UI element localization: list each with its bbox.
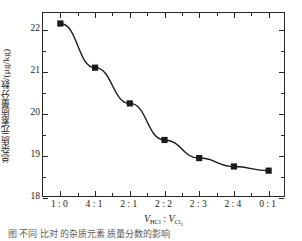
x-axis-minor-tick bbox=[147, 13, 148, 16]
y-axis-minor-tick bbox=[43, 51, 46, 52]
x-axis-minor-tick bbox=[112, 13, 113, 16]
y-axis-tick-labels: 1819202122 bbox=[14, 0, 40, 241]
x-axis-minor-tick bbox=[182, 13, 183, 16]
chart-figure: 总杂质元素质量分数/(μg/kg) 1819202122 1 : 04 : 12… bbox=[0, 0, 302, 241]
x-axis-minor-tick bbox=[78, 193, 79, 196]
x-axis-tick bbox=[95, 13, 96, 18]
x-axis-tick bbox=[60, 13, 61, 18]
x-axis-tick bbox=[165, 13, 166, 18]
x-axis-tick bbox=[95, 191, 96, 196]
x-axis-tick bbox=[234, 13, 235, 18]
y-axis-tick-label: 21 bbox=[16, 66, 40, 76]
y-axis-tick-label: 18 bbox=[16, 192, 40, 202]
x-axis-minor-tick bbox=[217, 193, 218, 196]
y-axis-minor-tick bbox=[281, 177, 284, 178]
y-axis-minor-tick bbox=[43, 177, 46, 178]
x-axis-tick bbox=[269, 191, 270, 196]
x-axis-tick bbox=[60, 191, 61, 196]
x-axis-minor-tick bbox=[112, 193, 113, 196]
x-axis-minor-tick bbox=[251, 13, 252, 16]
y-axis-tick-label: 20 bbox=[16, 108, 40, 118]
x-axis-minor-tick bbox=[182, 193, 183, 196]
y-axis-tick bbox=[279, 30, 284, 31]
data-point-marker bbox=[266, 168, 272, 174]
y-axis-tick bbox=[279, 114, 284, 115]
y-axis-tick bbox=[279, 72, 284, 73]
data-point-marker bbox=[161, 137, 167, 143]
y-axis-tick-label: 19 bbox=[16, 150, 40, 160]
x-axis-tick-label: 2 : 3 bbox=[190, 199, 207, 210]
x-axis-var-2: VCl2 bbox=[168, 213, 183, 224]
y-axis-minor-tick bbox=[43, 135, 46, 136]
x-axis-tick-label: 1 : 0 bbox=[51, 199, 68, 210]
y-axis-minor-tick bbox=[281, 135, 284, 136]
y-axis-minor-tick bbox=[281, 51, 284, 52]
x-axis-var-2-subscript-number: 2 bbox=[181, 222, 184, 227]
x-axis-var-1-subscript: HCl bbox=[150, 218, 161, 225]
x-axis-title: VHCl : VCl2 bbox=[42, 213, 285, 227]
x-axis-var-2-subscript: Cl2 bbox=[175, 218, 184, 225]
x-axis-tick bbox=[199, 13, 200, 18]
x-axis-tick-label: 0 : 1 bbox=[259, 199, 276, 210]
y-axis-tick bbox=[43, 114, 48, 115]
data-point-marker bbox=[57, 20, 63, 26]
x-axis-tick-label: 2 : 4 bbox=[224, 199, 241, 210]
data-point-marker bbox=[127, 100, 133, 106]
y-axis-tick-label: 22 bbox=[16, 24, 40, 34]
y-axis-tick bbox=[43, 72, 48, 73]
x-axis-tick-label: 2 : 2 bbox=[155, 199, 172, 210]
series-line bbox=[60, 24, 268, 171]
x-axis-minor-tick bbox=[78, 13, 79, 16]
y-axis-minor-tick bbox=[281, 93, 284, 94]
x-axis-tick bbox=[269, 13, 270, 18]
plot-area bbox=[42, 12, 285, 197]
data-point-marker bbox=[92, 65, 98, 71]
x-axis-tick bbox=[199, 191, 200, 196]
x-axis-tick bbox=[234, 191, 235, 196]
y-axis-tick bbox=[43, 156, 48, 157]
figure-caption: 图 不同 比对 的杂质元素 质量分数的影响 bbox=[8, 228, 298, 241]
y-axis-tick bbox=[43, 30, 48, 31]
x-axis-minor-tick bbox=[147, 193, 148, 196]
x-axis-var-1: VHCl bbox=[144, 213, 161, 224]
x-axis-tick bbox=[165, 191, 166, 196]
x-axis-minor-tick bbox=[251, 193, 252, 196]
x-axis-tick bbox=[130, 191, 131, 196]
x-axis-tick bbox=[130, 13, 131, 18]
data-point-marker bbox=[231, 163, 237, 169]
y-axis-tick bbox=[279, 156, 284, 157]
x-axis-tick-label: 2 : 1 bbox=[120, 199, 137, 210]
x-axis-tick-label: 4 : 1 bbox=[86, 199, 103, 210]
x-axis-minor-tick bbox=[217, 13, 218, 16]
data-point-marker bbox=[196, 155, 202, 161]
data-series-line bbox=[43, 13, 286, 198]
y-axis-minor-tick bbox=[43, 93, 46, 94]
